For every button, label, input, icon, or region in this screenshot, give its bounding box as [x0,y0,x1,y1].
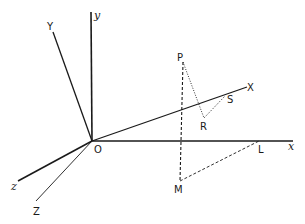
label-x-axis: x [288,140,295,153]
segment-ML [180,141,259,181]
Y-axis-rotated [53,32,92,141]
label-Z-axis: Z [33,206,40,217]
coordinate-diagram: y x z Y X Z O P R S L M [0,0,305,224]
Z-axis-rotated [36,141,92,201]
label-point-S: S [227,94,233,105]
segment-PR [183,62,204,118]
label-point-L: L [258,144,264,155]
label-point-P: P [177,52,183,63]
label-Y-axis: Y [46,21,54,32]
segment-RS [204,96,225,118]
diagram-canvas: y x z Y X Z O P R S L M [0,0,305,224]
z-axis [18,141,92,181]
label-y-axis: y [93,9,101,22]
label-z-axis: z [10,180,17,193]
X-axis-rotated [92,87,247,141]
label-origin: O [94,144,102,155]
y-axis [91,12,92,141]
label-point-R: R [200,121,207,132]
segment-PM [180,62,183,181]
label-X-axis: X [247,82,254,93]
label-point-M: M [174,184,183,195]
